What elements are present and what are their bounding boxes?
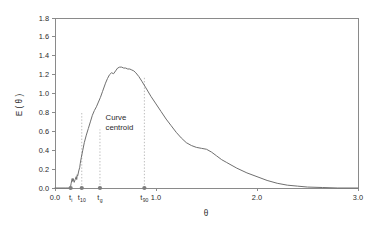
y-axis-title: E ( θ ) (15, 94, 24, 117)
marker-label-t10: t10 (78, 193, 86, 203)
marker-label-ti: ti (69, 193, 73, 203)
marker-dot-t90 (142, 186, 146, 190)
data-series-group (55, 67, 358, 188)
residence-time-distribution-chart: 0.00.20.40.60.81.01.21.41.61.8 0.01.02.0… (0, 0, 384, 229)
curve-e-theta (55, 67, 358, 188)
y-tick-label: 1.0 (39, 89, 49, 98)
chart-annotations: Curvecentroid (106, 113, 134, 132)
annotation-line-2: centroid (106, 123, 134, 132)
y-tick-label: 1.8 (39, 14, 49, 23)
x-tick-label: 3.0 (353, 193, 363, 202)
y-tick-label: 1.2 (39, 70, 49, 79)
marker-label-subscript: i (71, 197, 72, 203)
x-tick-label: 1.0 (151, 193, 161, 202)
marker-dot-tg (98, 186, 102, 190)
y-tick-label: 1.4 (39, 51, 49, 60)
axis-frame (55, 18, 358, 188)
y-tick-label: 0.6 (39, 127, 49, 136)
marker-label-subscript: 10 (80, 197, 86, 203)
chart-container: 0.00.20.40.60.81.01.21.41.61.8 0.01.02.0… (0, 0, 384, 229)
x-axis-title: θ (204, 209, 209, 218)
y-tick-label: 0.0 (39, 184, 49, 193)
marker-label-tg: tg (97, 193, 102, 203)
marker-label-subscript: g (100, 197, 103, 203)
marker-label-t90: t90 (140, 193, 148, 203)
y-tick-label: 0.8 (39, 108, 49, 117)
x-tick-label: 2.0 (252, 193, 262, 202)
y-axis-ticks: 0.00.20.40.60.81.01.21.41.61.8 (39, 14, 55, 193)
marker-guide-lines (82, 77, 145, 188)
y-tick-label: 0.4 (39, 146, 49, 155)
plot-frame (55, 18, 358, 188)
marker-dot-t10 (80, 186, 84, 190)
x-tick-label: 0.0 (50, 193, 60, 202)
annotation-line-1: Curve (106, 113, 127, 122)
y-tick-label: 1.6 (39, 32, 49, 41)
y-tick-label: 0.2 (39, 165, 49, 174)
marker-label-subscript: 90 (143, 197, 149, 203)
marker-dot-ti (69, 186, 73, 190)
